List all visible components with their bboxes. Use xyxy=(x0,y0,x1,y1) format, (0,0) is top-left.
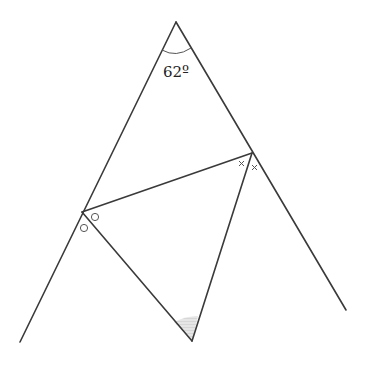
geometry-diagram: 62º xyxy=(0,0,369,370)
circle-mark-lower xyxy=(80,224,87,231)
apex-angle-label: 62º xyxy=(163,63,189,81)
diagram-svg: 62º xyxy=(0,0,369,370)
segment-pr xyxy=(82,212,192,341)
shaded-angle-r xyxy=(174,316,198,341)
apex-angle-arc xyxy=(162,48,191,54)
right-side-line xyxy=(176,22,346,310)
cross-mark-left xyxy=(239,161,244,166)
cross-mark-right xyxy=(252,165,257,170)
circle-mark-upper xyxy=(91,213,98,220)
segment-qr xyxy=(192,153,252,341)
